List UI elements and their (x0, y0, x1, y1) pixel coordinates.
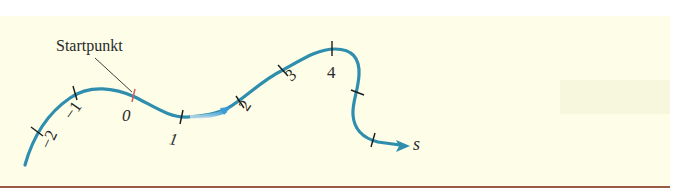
tick-label-4: 4 (327, 63, 336, 82)
start-leader-line (95, 58, 132, 92)
startpunkt-label: Startpunkt (56, 37, 123, 55)
tick-label-0: 0 (122, 106, 131, 125)
axis-variable-s: s (413, 134, 420, 154)
tick-label-3: 3 (281, 65, 300, 85)
tick-label-2: 2 (235, 96, 255, 114)
direction-arrow (190, 111, 226, 117)
arc-length-parametrization-diagram: Startpunkt −2 −1 0 1 2 3 4 s (0, 0, 678, 190)
tick-label-1: 1 (168, 129, 180, 149)
